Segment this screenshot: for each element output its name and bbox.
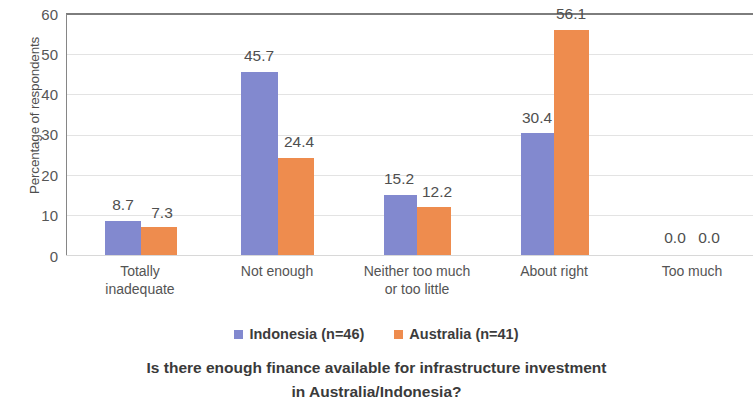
chart-title-line1: Is there enough finance available for in… [0,356,753,380]
bar-australia-neither [417,207,451,256]
chart-title-line2: in Australia/Indonesia? [0,380,753,404]
category-label-line1: Neither too much [364,263,471,279]
y-tick-40: 40 [2,86,58,103]
category-label-neither: Neither too much or too little [347,262,487,298]
value-label-australia-not-enough: 24.4 [284,133,314,151]
gridline-50 [67,54,753,55]
y-axis-tick-labels: 60 50 40 30 20 10 0 [0,0,58,412]
bar-indonesia-neither [384,195,417,256]
category-label-not-enough: Not enough [207,262,347,280]
y-tick-30: 30 [2,126,58,143]
gridline-40 [67,94,753,95]
chart-legend: Indonesia (n=46) Australia (n=41) [0,326,753,342]
category-label-line1: About right [520,263,588,279]
legend-label-indonesia: Indonesia (n=46) [249,326,364,342]
value-label-australia-totally-inadequate: 7.3 [151,204,173,222]
value-label-indonesia-not-enough: 45.7 [244,47,274,65]
category-label-line1: Not enough [241,263,313,279]
plot-area: 8.7 7.3 45.7 24.4 15.2 12.2 30.4 56.1 0.… [66,14,753,256]
legend-item-australia[interactable]: Australia (n=41) [394,326,518,342]
chart-figure: Percentage of respondents 60 50 40 30 20… [0,0,753,412]
y-tick-0: 0 [2,248,58,265]
value-label-australia-too-much: 0.0 [698,229,720,247]
value-label-australia-neither: 12.2 [422,183,452,201]
y-tick-50: 50 [2,46,58,63]
category-label-totally-inadequate: Totally inadequate [70,262,210,298]
bar-indonesia-about-right [521,133,554,256]
value-label-indonesia-about-right: 30.4 [522,109,552,127]
bar-australia-totally-inadequate [141,227,177,256]
value-label-indonesia-too-much: 0.0 [664,229,686,247]
legend-swatch-indonesia-icon [234,330,243,339]
legend-item-indonesia[interactable]: Indonesia (n=46) [234,326,364,342]
category-label-about-right: About right [484,262,624,280]
bar-australia-not-enough [278,158,314,256]
category-label-line1: Totally [120,263,160,279]
value-label-australia-about-right: 56.1 [556,5,586,23]
y-tick-20: 20 [2,167,58,184]
x-axis-baseline [66,255,753,256]
value-label-indonesia-totally-inadequate: 8.7 [112,196,134,214]
bar-indonesia-totally-inadequate [105,221,141,256]
category-label-line1: Too much [662,263,723,279]
value-label-indonesia-neither: 15.2 [384,170,414,188]
x-axis-category-labels: Totally inadequate Not enough Neither to… [66,262,753,310]
legend-label-australia: Australia (n=41) [409,326,518,342]
y-tick-10: 10 [2,207,58,224]
legend-swatch-australia-icon [394,330,403,339]
category-label-line2: inadequate [105,281,174,297]
category-label-too-much: Too much [622,262,753,280]
chart-title: Is there enough finance available for in… [0,356,753,404]
gridline-30 [67,135,753,136]
category-label-line2: or too little [385,281,450,297]
bar-australia-about-right [554,30,589,256]
y-tick-60: 60 [2,6,58,23]
bar-indonesia-not-enough [241,72,278,256]
